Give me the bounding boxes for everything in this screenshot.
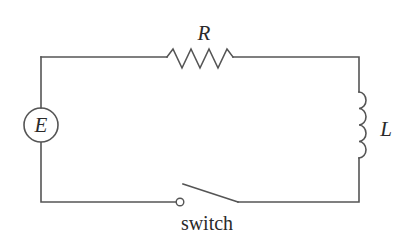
switch-label: switch [181,212,233,234]
inductor-label: L [379,117,392,141]
circuit-diagram: R E L switch [0,0,418,245]
resistor-label: R [197,21,211,45]
source-label: E [34,113,48,137]
switch-blade [183,184,238,202]
inductor-symbol [359,92,366,158]
circuit-svg: R E L switch [0,0,418,245]
wire-bottom-left [41,142,176,202]
wire-top-right [233,57,359,92]
wire-right-bottom [238,158,359,202]
switch-contact [176,198,184,206]
resistor-symbol [167,49,233,68]
